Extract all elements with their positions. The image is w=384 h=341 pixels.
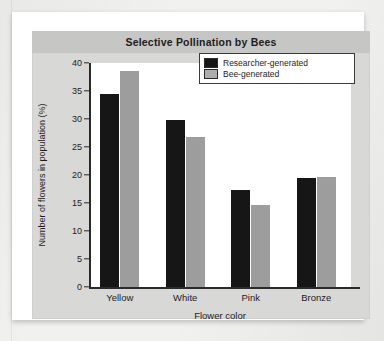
y-axis-tick	[84, 258, 89, 259]
x-axis-label-bronze: Bronze	[301, 292, 331, 303]
y-axis-tick-label: 5	[77, 254, 82, 264]
y-axis-tick	[84, 90, 89, 91]
y-axis-tick-label: 25	[72, 142, 82, 152]
y-axis-tick	[84, 230, 89, 231]
y-axis-tick-label: 40	[72, 58, 82, 68]
y-axis-tick	[84, 202, 89, 203]
chart-title: Selective Pollination by Bees	[125, 36, 276, 48]
y-axis-tick-label: 20	[72, 170, 82, 180]
x-axis-line	[89, 287, 360, 289]
legend-label-bee-generated: Bee-generated	[223, 69, 279, 79]
chart-panel: Selective Pollination by Bees 0510152025…	[32, 31, 370, 319]
y-axis-tick	[84, 146, 89, 147]
page-background: Selective Pollination by Bees 0510152025…	[0, 0, 384, 341]
legend-swatch-researcher-generated	[204, 58, 218, 68]
bar-bronze-researcher-generated	[297, 178, 316, 287]
y-axis-tick-label: 35	[72, 86, 82, 96]
legend-swatch-bee-generated	[204, 69, 218, 79]
y-axis-line	[89, 63, 91, 288]
y-axis-title-text: Number of flowers in population (%)	[37, 103, 47, 246]
y-axis-tick-label: 10	[72, 226, 82, 236]
chart-legend: Researcher-generated Bee-generated	[199, 53, 355, 84]
figure-card: Selective Pollination by Bees 0510152025…	[12, 12, 364, 320]
y-axis-title: Number of flowers in population (%)	[35, 63, 49, 287]
bar-white-bee-generated	[186, 137, 205, 287]
bar-yellow-bee-generated	[120, 71, 139, 287]
bar-yellow-researcher-generated	[100, 94, 119, 287]
legend-item: Bee-generated	[204, 69, 350, 79]
y-axis-tick-label: 30	[72, 114, 82, 124]
y-axis-tick	[84, 286, 89, 287]
y-axis-tick-label: 0	[77, 282, 82, 292]
bar-white-researcher-generated	[166, 120, 185, 287]
x-axis-label-pink: Pink	[242, 292, 260, 303]
y-axis-tick-label: 15	[72, 198, 82, 208]
y-axis-tick	[84, 118, 89, 119]
legend-item: Researcher-generated	[204, 58, 350, 68]
chart-title-band: Selective Pollination by Bees	[32, 31, 370, 53]
bar-pink-researcher-generated	[231, 190, 250, 287]
y-axis-tick	[84, 62, 89, 63]
x-axis-label-yellow: Yellow	[106, 292, 133, 303]
bar-pink-bee-generated	[251, 205, 270, 287]
y-axis-tick	[84, 174, 89, 175]
x-axis-title: Flower color	[89, 310, 351, 321]
bar-bronze-bee-generated	[317, 177, 336, 287]
legend-label-researcher-generated: Researcher-generated	[223, 58, 308, 68]
x-axis-label-white: White	[173, 292, 197, 303]
